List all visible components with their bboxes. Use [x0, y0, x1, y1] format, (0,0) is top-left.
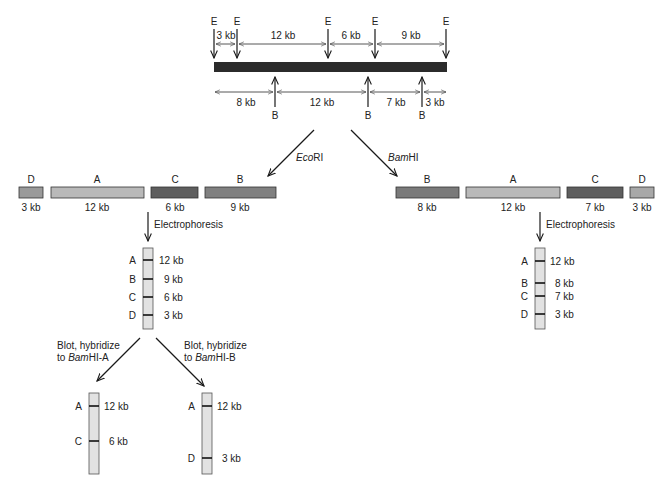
band-size: 12 kb	[550, 256, 575, 267]
band-letter: C	[129, 292, 136, 303]
gel-band: C 6 kb	[129, 292, 184, 303]
interval-label: 12 kb	[271, 30, 296, 41]
bamhi-site-2: B	[365, 77, 372, 121]
electrophoresis-step-bamhi: Electrophoresis	[540, 212, 615, 241]
blot-label-line2: to BamHI-B	[184, 352, 236, 363]
bamhi-site-1: B	[272, 77, 279, 121]
gel-lane-ecori: A 12 kb B 9 kb C 6 kb D 3 kb	[129, 248, 184, 329]
band-size: 12 kb	[217, 401, 242, 412]
blot-label-suffix: HI-B	[216, 352, 236, 363]
fragment-bamhi-b: B 8 kb	[396, 174, 459, 213]
blot-step-probe-b: Blot, hybridize to BamHI-B	[156, 338, 247, 386]
fragment-bar	[151, 187, 198, 198]
band-size: 9 kb	[164, 274, 183, 285]
interval-label: 12 kb	[310, 97, 335, 108]
blot-step-probe-a: Blot, hybridize to BamHI-A	[57, 338, 140, 381]
fragment-bar	[205, 187, 276, 198]
band-size: 3 kb	[222, 453, 241, 464]
blot-lane-probe-b: A 12 kb D 3 kb	[188, 393, 242, 474]
gel-band: B 9 kb	[129, 274, 183, 285]
fragment-letter: A	[94, 174, 101, 185]
band-size: 3 kb	[555, 309, 574, 320]
gel-lane-bamhi: A 12 kb B 8 kb C 7 kb D 3 kb	[521, 248, 575, 329]
ecori-site-3: E	[325, 16, 332, 58]
interval-label: 3 kb	[426, 97, 445, 108]
band-size: 3 kb	[164, 310, 183, 321]
band-letter: A	[188, 401, 195, 412]
gel-band: D 3 kb	[129, 310, 184, 321]
band-size: 12 kb	[159, 255, 184, 266]
enzyme-suffix: RI	[313, 152, 323, 163]
ecori-site-5: E	[443, 16, 450, 58]
fragment-ecori-b: B 9 kb	[205, 174, 276, 213]
gel-lane	[89, 393, 99, 474]
fragment-bar	[567, 187, 623, 198]
restriction-map: E E E E E	[211, 16, 450, 121]
enzyme-italic: Bam	[388, 152, 409, 163]
interval-label: 7 kb	[387, 97, 406, 108]
band-size: 12 kb	[104, 401, 129, 412]
fragment-letter: B	[424, 174, 431, 185]
ecori-site-label: E	[443, 16, 450, 27]
electrophoresis-label: Electrophoresis	[546, 219, 615, 230]
fragment-bar	[19, 187, 43, 198]
fragment-bar	[51, 187, 144, 198]
fragment-size: 8 kb	[418, 202, 437, 213]
fragment-letter: C	[171, 174, 178, 185]
electrophoresis-label: Electrophoresis	[154, 219, 223, 230]
fragment-ecori-a: A 12 kb	[51, 174, 144, 213]
blot-label-line1: Blot, hybridize	[184, 340, 247, 351]
gel-band: A 12 kb	[75, 401, 129, 412]
band-letter: A	[75, 401, 82, 412]
interval-label: 3 kb	[217, 30, 236, 41]
bamhi-digest-arrow: BamHI	[351, 130, 419, 176]
fragment-bar	[396, 187, 459, 198]
fragment-ecori-d: D 3 kb	[19, 174, 43, 213]
enzyme-label-ecori: EcoRI	[296, 152, 323, 163]
gel-band: A 12 kb	[188, 401, 242, 412]
interval-label: 9 kb	[402, 30, 421, 41]
fragment-size: 7 kb	[586, 202, 605, 213]
bamhi-intervals: 8 kb 12 kb 7 kb 3 kb	[215, 92, 446, 108]
enzyme-suffix: HI	[409, 152, 419, 163]
electrophoresis-step-ecori: Electrophoresis	[148, 212, 223, 241]
interval-label: 6 kb	[342, 30, 361, 41]
fragment-size: 3 kb	[22, 202, 41, 213]
band-letter: C	[521, 291, 528, 302]
ecori-site-label: E	[325, 16, 332, 27]
gel-band: C 6 kb	[75, 436, 129, 447]
band-letter: A	[521, 256, 528, 267]
fragment-bamhi-d: D 3 kb	[630, 174, 654, 213]
band-letter: D	[129, 310, 136, 321]
blot-label-line1: Blot, hybridize	[57, 340, 120, 351]
gel-band: A 12 kb	[521, 256, 575, 267]
fragment-letter: A	[510, 174, 517, 185]
fragment-bar	[466, 187, 560, 198]
blot-label-prefix: to	[184, 352, 195, 363]
band-letter: B	[521, 278, 528, 289]
fragment-letter: D	[638, 174, 645, 185]
gel-lane	[535, 248, 545, 329]
band-letter: A	[129, 255, 136, 266]
gel-band: C 7 kb	[521, 291, 575, 302]
fragment-size: 6 kb	[166, 202, 185, 213]
band-letter: D	[521, 309, 528, 320]
ecori-site-label: E	[234, 16, 241, 27]
blot-label-line2: to BamHI-A	[57, 352, 109, 363]
enzyme-label-bamhi: BamHI	[388, 152, 419, 163]
bamhi-fragments: B 8 kb A 12 kb C 7 kb D 3 kb	[396, 174, 654, 213]
blot-label-suffix: HI-A	[89, 352, 109, 363]
blot-label-italic: Bam	[68, 352, 89, 363]
ecori-fragments: D 3 kb A 12 kb C 6 kb B 9 kb	[19, 174, 276, 213]
fragment-bamhi-c: C 7 kb	[567, 174, 623, 213]
gel-band: D 3 kb	[521, 309, 575, 320]
gel-band: A 12 kb	[129, 255, 184, 266]
fragment-size: 9 kb	[231, 202, 250, 213]
restriction-map-diagram: E E E E E	[0, 0, 672, 487]
band-size: 6 kb	[164, 292, 183, 303]
bamhi-site-label: B	[272, 110, 279, 121]
fragment-letter: C	[591, 174, 598, 185]
fragment-size: 12 kb	[501, 202, 526, 213]
fragment-letter: D	[27, 174, 34, 185]
blot-label-italic: Bam	[195, 352, 216, 363]
